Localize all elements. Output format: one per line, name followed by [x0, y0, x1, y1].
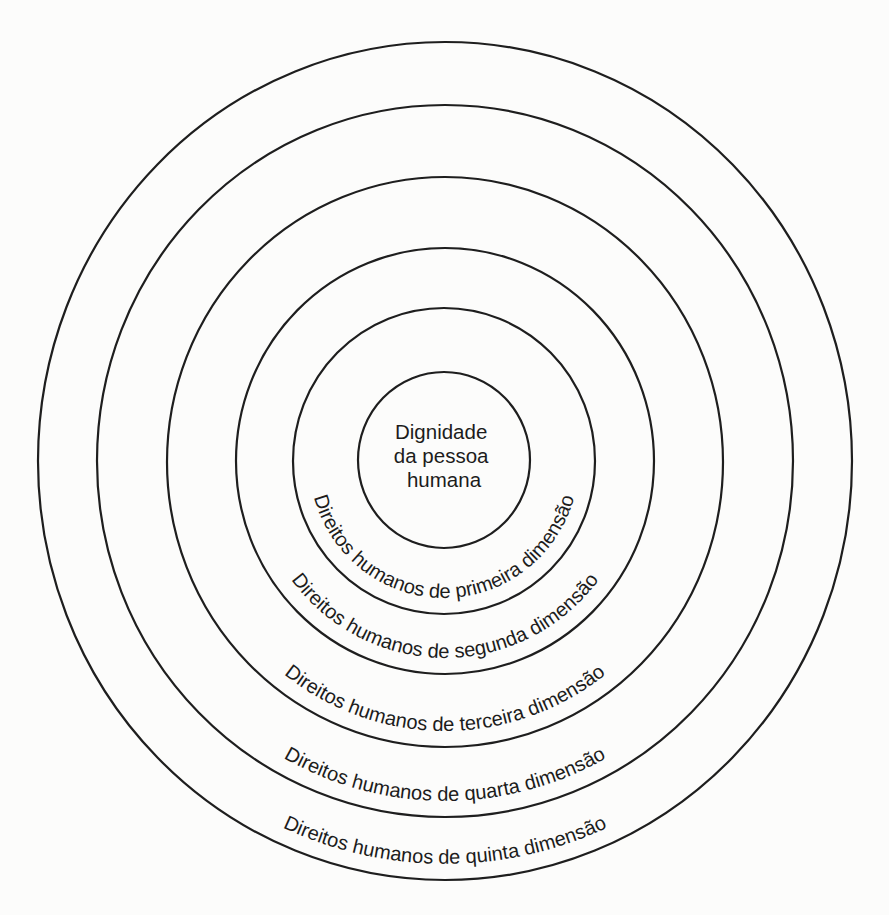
center-label-line-2: da pessoa — [394, 444, 489, 467]
ring-label-primeira: Direitos humanos de primeira dimensão — [310, 492, 578, 602]
concentric-rights-diagram: Direitos humanos de primeira dimensãoDir… — [0, 0, 889, 915]
ring-label-text: Direitos humanos de primeira dimensão — [310, 492, 578, 602]
ring-label-quarta: Direitos humanos de quarta dimensão — [281, 742, 608, 805]
center-label: Dignidade da pessoa humana — [394, 420, 494, 491]
ring-label-terceira: Direitos humanos de terceira dimensão — [281, 660, 608, 735]
center-label-line-1: Dignidade — [395, 420, 487, 443]
ring-label-text: Direitos humanos de terceira dimensão — [281, 660, 608, 735]
ring-label-text: Direitos humanos de quinta dimensão — [281, 811, 609, 868]
ring-label-quinta: Direitos humanos de quinta dimensão — [281, 811, 609, 868]
center-label-line-3: humana — [407, 468, 482, 491]
ring-label-text: Direitos humanos de quarta dimensão — [281, 742, 608, 805]
